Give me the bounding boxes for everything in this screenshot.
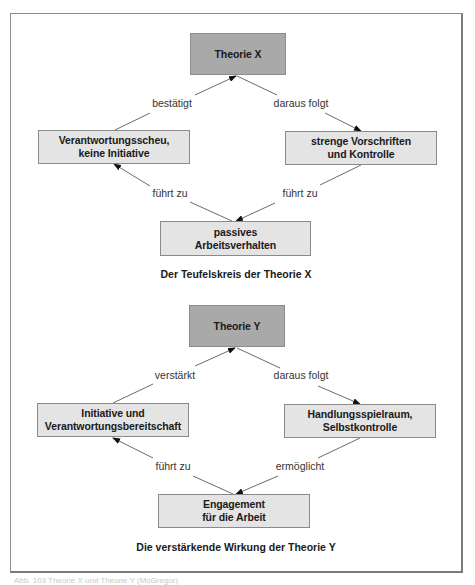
- node-line: Initiative und: [45, 407, 181, 420]
- strenge-vorschriften-box: strenge Vorschriften und Kontrolle: [285, 131, 437, 165]
- arrow-top-to-right-x: [237, 76, 277, 95]
- edge-label-daraus-folgt-y: daraus folgt: [274, 369, 329, 381]
- arrow-right-to-bottom-y: [318, 438, 360, 458]
- edge-label-verstaerkt: verstärkt: [155, 369, 195, 381]
- arrow-bottom-to-left-x: [190, 202, 232, 221]
- handlungsspielraum-box: Handlungsspielraum, Selbstkontrolle: [284, 404, 436, 438]
- initiative-box: Initiative und Verantwortungsbereitschaf…: [37, 403, 189, 437]
- theorie-x-box: Theorie X: [190, 33, 286, 75]
- node-line: und Kontrolle: [311, 148, 411, 161]
- arrow-top-to-right-y: [237, 348, 280, 368]
- caption-theorie-x: Der Teufelskreis der Theorie X: [161, 268, 312, 280]
- edge-label-daraus-folgt-x: daraus folgt: [274, 97, 329, 109]
- edge-label-fuehrt-zu-right-x: führt zu: [282, 187, 317, 199]
- node-line: keine Initiative: [59, 147, 170, 160]
- node-line: Verantwortungsbereitschaft: [45, 420, 181, 433]
- arrow-left-to-top-y: [113, 384, 153, 403]
- edge-label-ermoeglicht: ermöglicht: [276, 460, 324, 472]
- arrow-right-to-bottom-x: [320, 165, 361, 185]
- caption-theorie-y: Die verstärkende Wirkung der Theorie Y: [136, 541, 335, 553]
- arrow-left-to-top-x: [115, 113, 150, 130]
- node-line: strenge Vorschriften: [311, 135, 411, 148]
- node-line: Verantwortungsscheu,: [59, 134, 170, 147]
- node-line: Selbstkontrolle: [308, 421, 413, 434]
- node-line: Arbeitsverhalten: [195, 239, 276, 252]
- verantwortungsscheu-box: Verantwortungsscheu, keine Initiative: [38, 130, 190, 164]
- node-line: Engagement: [202, 498, 266, 511]
- passives-arbeitsverhalten-box: passives Arbeitsverhalten: [160, 221, 311, 256]
- engagement-box: Engagement für die Arbeit: [158, 494, 310, 528]
- theorie-y-box: Theorie Y: [189, 305, 285, 347]
- arrow-bottom-to-left-y: [193, 476, 233, 494]
- node-line: für die Arbeit: [202, 511, 266, 524]
- node-line: passives: [195, 226, 276, 239]
- edge-label-bestaetigt: bestätigt: [152, 97, 192, 109]
- edge-label-fuehrt-zu-left-x: führt zu: [152, 187, 187, 199]
- theorie-x-label: Theorie X: [215, 48, 262, 61]
- node-line: Handlungsspielraum,: [308, 408, 413, 421]
- edge-label-fuehrt-zu-y: führt zu: [155, 460, 190, 472]
- figure-footnote: Abb. 103 Theorie X und Theorie Y (McGreg…: [14, 576, 178, 585]
- theorie-y-label: Theorie Y: [214, 320, 261, 333]
